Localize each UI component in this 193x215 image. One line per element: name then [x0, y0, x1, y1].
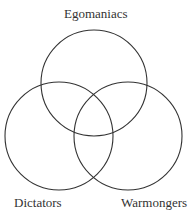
- label-warmongers: Warmongers: [121, 195, 187, 211]
- venn-diagram: Egomaniacs Dictators Warmongers: [0, 0, 193, 215]
- circle-egomaniacs: [41, 30, 147, 136]
- label-dictators: Dictators: [14, 195, 62, 211]
- label-egomaniacs: Egomaniacs: [64, 6, 128, 22]
- venn-circles: [0, 0, 193, 215]
